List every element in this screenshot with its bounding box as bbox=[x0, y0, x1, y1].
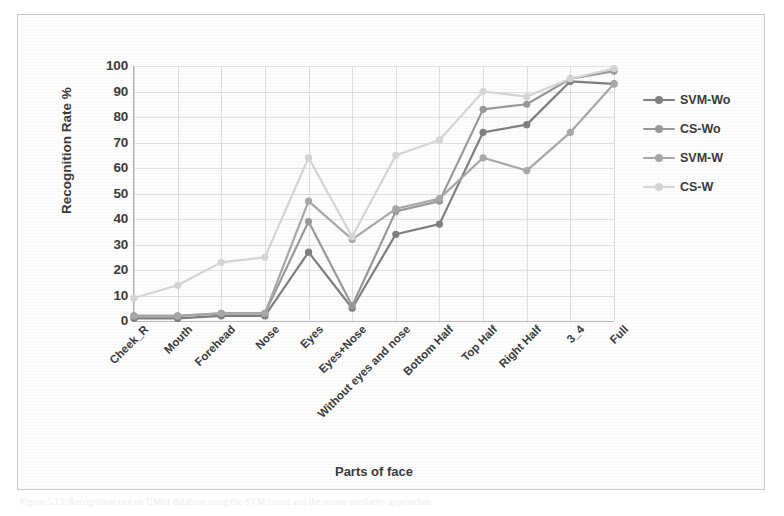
data-point bbox=[392, 231, 399, 238]
y-tick-label: 70 bbox=[82, 136, 128, 150]
data-point bbox=[436, 136, 443, 143]
data-point bbox=[305, 198, 312, 205]
data-point bbox=[479, 106, 486, 113]
chart-legend: SVM-WoCS-WoSVM-WCS-W bbox=[643, 87, 773, 203]
y-axis-title: Recognition Rate % bbox=[59, 41, 74, 261]
data-point bbox=[523, 167, 530, 174]
x-axis-tick-labels: Cheek_RMouthForeheadNoseEyesEyes+NoseWit… bbox=[134, 323, 614, 453]
legend-label: SVM-W bbox=[680, 151, 723, 165]
x-tick-label: Eyes bbox=[298, 323, 325, 350]
y-tick-label: 100 bbox=[82, 59, 128, 73]
x-axis-title: Parts of face bbox=[134, 464, 614, 479]
x-tick-label: Forehead bbox=[193, 323, 238, 368]
y-tick-label: 30 bbox=[82, 238, 128, 252]
data-point bbox=[174, 282, 181, 289]
legend-label: CS-W bbox=[680, 180, 713, 194]
figure-frame: Recognition Rate % 010203040506070809010… bbox=[17, 14, 765, 490]
data-point bbox=[218, 259, 225, 266]
data-point bbox=[523, 121, 530, 128]
x-tick-label: Without eyes and nose bbox=[315, 323, 412, 420]
data-point bbox=[567, 75, 574, 82]
legend-marker-icon bbox=[643, 123, 675, 135]
data-point bbox=[436, 221, 443, 228]
x-tick-label: 3_4 bbox=[565, 323, 587, 345]
data-point bbox=[567, 129, 574, 136]
data-point bbox=[392, 152, 399, 159]
legend-item-svm-w[interactable]: SVM-W bbox=[643, 145, 773, 170]
data-point bbox=[479, 129, 486, 136]
data-point bbox=[349, 302, 356, 309]
data-point bbox=[261, 310, 268, 317]
y-tick-label: 20 bbox=[82, 263, 128, 277]
series-svm-w bbox=[130, 80, 617, 319]
legend-label: SVM-Wo bbox=[680, 93, 730, 107]
data-point bbox=[610, 65, 617, 72]
data-point bbox=[174, 312, 181, 319]
data-point bbox=[523, 93, 530, 100]
legend-item-cs-w[interactable]: CS-W bbox=[643, 174, 773, 199]
y-tick-label: 60 bbox=[82, 161, 128, 175]
y-tick-label: 10 bbox=[82, 289, 128, 303]
legend-item-svm-wo[interactable]: SVM-Wo bbox=[643, 87, 773, 112]
gridline-0 bbox=[134, 321, 614, 322]
legend-marker-icon bbox=[643, 152, 675, 164]
x-tick-label: Right Half bbox=[496, 323, 543, 370]
data-point bbox=[130, 294, 137, 301]
data-point bbox=[523, 101, 530, 108]
data-point bbox=[392, 205, 399, 212]
series-lines bbox=[134, 66, 614, 321]
figure-caption: Figure 5.13: Recognition rate on UMist d… bbox=[20, 497, 764, 507]
series-cs-wo bbox=[130, 68, 617, 320]
legend-marker-icon bbox=[643, 94, 675, 106]
legend-item-cs-wo[interactable]: CS-Wo bbox=[643, 116, 773, 141]
data-point bbox=[261, 254, 268, 261]
x-tick-label: Nose bbox=[253, 323, 281, 351]
data-point bbox=[349, 233, 356, 240]
x-tick-label: Mouth bbox=[161, 323, 194, 356]
data-point bbox=[218, 310, 225, 317]
data-point bbox=[479, 154, 486, 161]
x-tick-label: Top Half bbox=[459, 323, 499, 363]
y-axis-tick-labels: 0102030405060708090100 bbox=[76, 66, 128, 321]
x-tick-label: Full bbox=[608, 323, 631, 346]
data-point bbox=[305, 218, 312, 225]
legend-label: CS-Wo bbox=[680, 122, 721, 136]
data-point bbox=[305, 154, 312, 161]
data-point bbox=[610, 80, 617, 87]
data-point bbox=[479, 88, 486, 95]
data-point bbox=[305, 249, 312, 256]
y-tick-label: 80 bbox=[82, 110, 128, 124]
y-tick-label: 40 bbox=[82, 212, 128, 226]
series-cs-w bbox=[130, 65, 617, 302]
y-tick-label: 50 bbox=[82, 187, 128, 201]
y-tick-label: 90 bbox=[82, 85, 128, 99]
category-gridline bbox=[614, 66, 615, 321]
x-tick-label: Cheek_R bbox=[107, 323, 150, 366]
y-tick-label: 0 bbox=[82, 314, 128, 328]
series-svm-wo bbox=[130, 78, 617, 322]
legend-marker-icon bbox=[643, 181, 675, 193]
data-point bbox=[436, 195, 443, 202]
plot-area bbox=[134, 66, 614, 321]
data-point bbox=[130, 312, 137, 319]
